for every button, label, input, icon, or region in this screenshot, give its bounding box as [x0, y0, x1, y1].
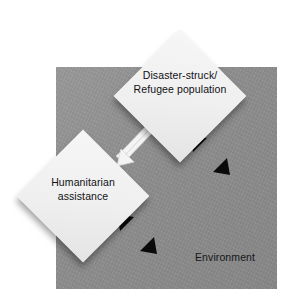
node-left-label-line1: Humanitarian	[13, 175, 153, 189]
node-top-label-line2: Refugee population	[110, 82, 250, 96]
environment-label: Environment	[195, 251, 255, 263]
node-left-label-line2: assistance	[13, 189, 153, 203]
diagram-canvas: Environment Disaster-struck/ Refugee pop…	[0, 0, 290, 307]
node-humanitarian-assistance-label: Humanitarian assistance	[13, 175, 153, 203]
node-disaster-struck-refugee-population-label: Disaster-struck/ Refugee population	[110, 68, 250, 96]
node-top-label-line1: Disaster-struck/	[110, 68, 250, 82]
